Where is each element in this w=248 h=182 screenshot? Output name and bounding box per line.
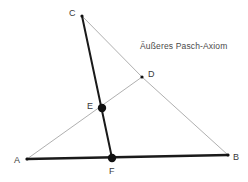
segment-DB: [142, 77, 228, 155]
point-marker-E: [98, 104, 106, 112]
point-marker-B: [226, 153, 229, 156]
point-label-B: B: [233, 153, 239, 162]
figure-caption: Äußeres Pasch-Axiom: [140, 42, 227, 51]
point-marker-C: [80, 14, 83, 17]
point-marker-D: [140, 75, 143, 78]
segment-CF: [82, 16, 112, 158]
segment-CD: [82, 16, 142, 77]
point-label-F: F: [109, 167, 115, 176]
segment-AB: [27, 155, 228, 159]
point-label-E: E: [87, 102, 93, 111]
point-label-A: A: [14, 156, 20, 165]
point-marker-F: [108, 154, 116, 162]
point-label-D: D: [148, 70, 155, 79]
geometry-figure: A B C D E F Äußeres Pasch-Axiom: [0, 0, 248, 182]
point-label-C: C: [69, 9, 76, 18]
segment-AD: [27, 77, 142, 159]
point-marker-A: [25, 157, 28, 160]
geometry-canvas: [0, 0, 248, 182]
